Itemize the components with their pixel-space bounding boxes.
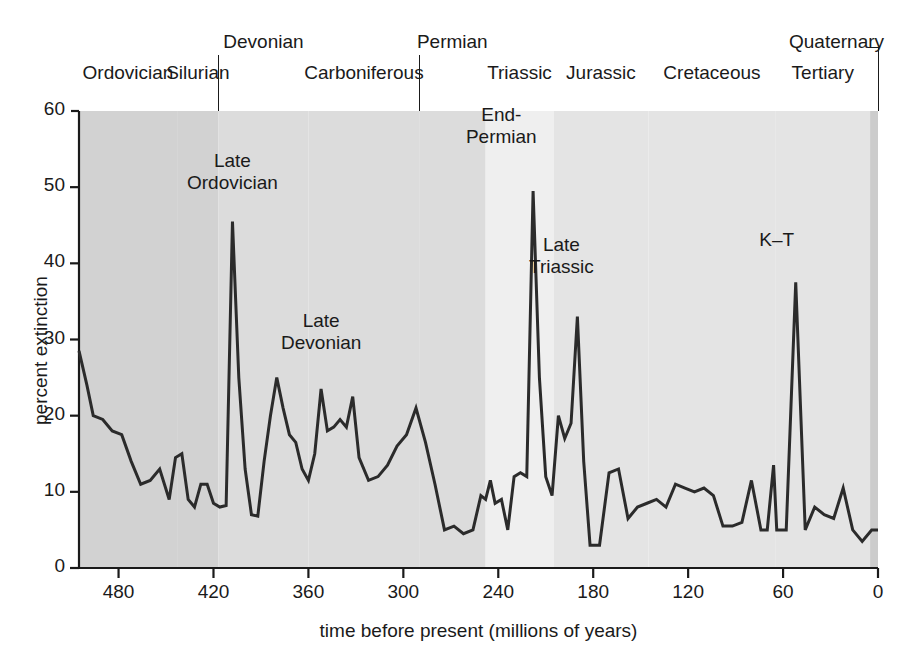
x-axis-tick-label-120: 120 [648, 581, 728, 603]
period-band-quaternary [870, 111, 878, 568]
period-band-tertiary [775, 111, 870, 568]
annotation-late-devonian: Late Devonian [281, 310, 361, 354]
annotation-late-ordovician: Late Ordovician [187, 150, 278, 194]
annotation-k-t: K–T [759, 229, 794, 251]
y-axis-title: percent extinction [30, 276, 52, 425]
y-axis-tick-label-0: 0 [54, 555, 65, 577]
x-axis-tick-label-180: 180 [553, 581, 633, 603]
extinction-rate-chart: OrdovicianSilurianDevonianCarboniferousP… [0, 0, 913, 665]
x-axis-tick-label-240: 240 [458, 581, 538, 603]
y-axis-tick-label-40: 40 [44, 250, 65, 272]
x-axis-tick-label-480: 480 [79, 581, 159, 603]
y-axis-tick-label-10: 10 [44, 479, 65, 501]
x-axis-title: time before present (millions of years) [0, 620, 913, 642]
y-axis-tick-label-50: 50 [44, 174, 65, 196]
annotation-end-permian: End- Permian [466, 104, 537, 148]
x-axis-tick-label-0: 0 [838, 581, 913, 603]
period-band-permian [419, 111, 485, 568]
x-axis-tick-label-60: 60 [743, 581, 823, 603]
annotation-late-triassic: Late Triassic [529, 234, 594, 278]
y-axis-tick-label-60: 60 [44, 98, 65, 120]
x-axis-tick-label-360: 360 [268, 581, 348, 603]
x-axis-tick-label-300: 300 [363, 581, 443, 603]
x-axis-tick-label-420: 420 [173, 581, 253, 603]
period-band-jurassic [554, 111, 649, 568]
period-band-ordovician [79, 111, 177, 568]
